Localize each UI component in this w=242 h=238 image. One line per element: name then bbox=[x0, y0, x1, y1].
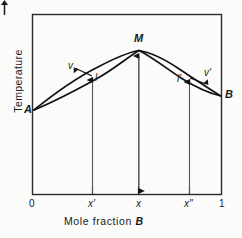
vapour-curve bbox=[34, 51, 221, 111]
x-axis-ticks bbox=[93, 187, 190, 195]
point-label-b: B bbox=[225, 89, 233, 100]
vapour-arrow-right bbox=[190, 78, 206, 84]
x-axis-title-species: B bbox=[135, 215, 143, 227]
y-axis-title-text: Temperature bbox=[12, 49, 24, 112]
phase-label-liquid-left: l bbox=[95, 73, 97, 83]
phase-label-vapour-left: v bbox=[68, 61, 73, 71]
phase-diagram-canvas bbox=[0, 0, 242, 238]
x-axis-title-prefix: Mole fraction bbox=[64, 215, 132, 227]
y-axis-title: Temperature bbox=[9, 21, 27, 141]
x-tick-label-0: 0 bbox=[29, 199, 35, 209]
liquid-curve bbox=[34, 51, 221, 111]
plot-frame bbox=[33, 15, 222, 195]
point-label-m: M bbox=[134, 33, 143, 44]
point-label-a: A bbox=[24, 104, 32, 115]
y-axis-arrow-icon bbox=[0, 0, 9, 16]
x-tick-label-x: x bbox=[136, 199, 141, 209]
x-tick-label-x-prime: x' bbox=[88, 199, 95, 209]
x-tick-label-1: 1 bbox=[219, 199, 225, 209]
azeotrope-phase-diagram-figure: Temperature A M B v l l' v' 0 x' x x" 1 … bbox=[0, 0, 242, 238]
phase-label-liquid-right: l' bbox=[177, 74, 181, 84]
x-axis-title: Mole fraction B bbox=[64, 216, 144, 227]
x-tick-label-x-doubleprime: x" bbox=[184, 199, 193, 209]
phase-label-vapour-right: v' bbox=[204, 68, 211, 78]
